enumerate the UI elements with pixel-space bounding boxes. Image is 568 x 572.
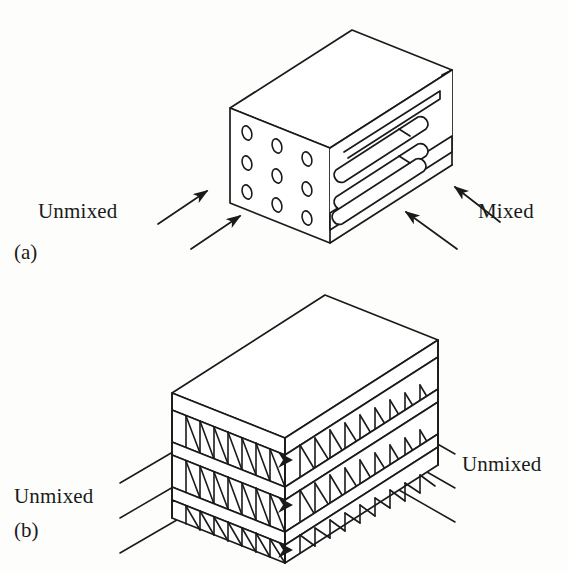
inlet-arrow-lower [191, 216, 240, 249]
figure-canvas: Unmixed Mixed (a) Unmixed Unmixed (b) [0, 0, 568, 572]
left-flow-line [120, 449, 178, 483]
panel-b-tag: (b) [14, 518, 39, 543]
panel-a-inlet-label: Unmixed [38, 199, 118, 224]
outlet-arrow-lower [406, 212, 457, 249]
panel-a-outlet-label: Mixed [478, 199, 534, 224]
left-flow-line [120, 517, 182, 553]
panel-b-right-label: Unmixed [462, 452, 542, 477]
panel-a-tag: (a) [14, 240, 37, 265]
inlet-arrow-upper [158, 191, 207, 224]
panel-a-graphic [158, 30, 500, 249]
right-flow-line [392, 486, 455, 522]
panel-b-graphic [120, 295, 455, 563]
left-flow-line [120, 483, 180, 518]
panel-b-left-label: Unmixed [14, 484, 94, 509]
